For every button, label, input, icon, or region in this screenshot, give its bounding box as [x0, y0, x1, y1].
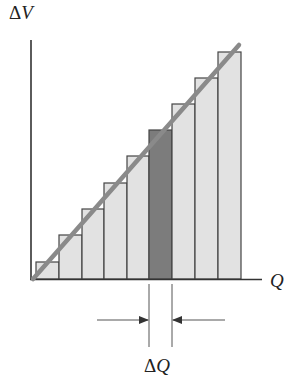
strip-bar-2	[59, 235, 82, 279]
strip-bar-7	[172, 104, 195, 279]
x-axis-variable: Q	[270, 270, 284, 291]
x-axis-label: Q	[270, 270, 284, 292]
strip-bars	[36, 52, 241, 279]
delta-symbol: Δ	[144, 355, 156, 376]
strip-bar-5	[127, 156, 149, 279]
interval-variable: Q	[156, 355, 170, 376]
strip-bar-highlighted	[149, 130, 172, 279]
y-axis-label: ΔV	[9, 2, 33, 24]
strip-bar-9	[218, 52, 241, 279]
y-axis-variable: V	[21, 2, 33, 23]
strip-bar-8	[195, 78, 218, 279]
delta-symbol: Δ	[9, 2, 21, 23]
interval-label: ΔQ	[144, 355, 170, 377]
diagram-canvas	[0, 0, 295, 390]
